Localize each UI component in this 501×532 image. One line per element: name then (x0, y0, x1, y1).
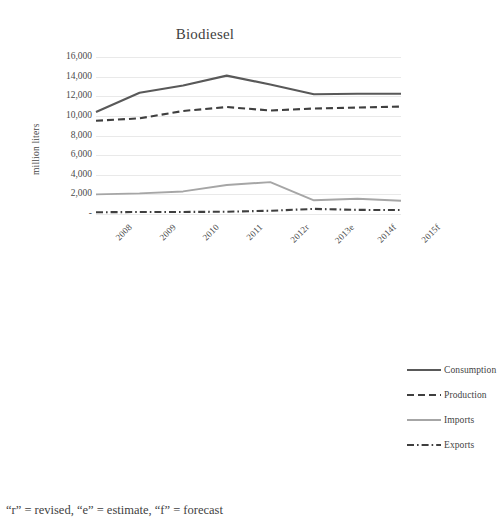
legend-item-production: Production (407, 382, 501, 407)
footnote-text: “r” = revised, “e” = estimate, “f” = for… (6, 503, 223, 518)
plot-area-biodiesel (96, 57, 401, 214)
x-tick-label: 2009 (157, 222, 177, 242)
y-tick-label: 2,000 (44, 190, 92, 200)
legend-label: Production (441, 390, 487, 400)
y-tick-label: 12,000 (44, 92, 92, 102)
legend-swatch-icon (407, 415, 441, 425)
x-tick-label: 2012r (289, 222, 312, 245)
chart-figure: Biodiesel million liters -2,0004,0006,00… (0, 0, 501, 532)
y-tick-label: 16,000 (44, 52, 92, 62)
series-layer (96, 57, 401, 214)
y-axis-ticks-biodiesel: -2,0004,0006,0008,00010,00012,00014,0001… (44, 57, 92, 214)
y-tick-label: 6,000 (44, 150, 92, 160)
x-axis-ticks-biodiesel: 20082009201020112012r2013e2014f2015f (96, 218, 401, 264)
y-axis-label-biodiesel: million liters (31, 123, 41, 175)
chart-title-biodiesel: Biodiesel (0, 26, 410, 43)
legend-label: Imports (441, 415, 474, 425)
series-line-production (96, 107, 401, 121)
legend-item-exports: Exports (407, 432, 501, 457)
legend-swatch-icon (407, 390, 441, 400)
legend-item-consumption: Consumption (407, 357, 501, 382)
series-line-consumption (96, 76, 401, 112)
gridline (96, 214, 401, 215)
chart-panel-biodiesel: Biodiesel million liters -2,0004,0006,00… (0, 0, 501, 268)
x-tick-label: 2014f (376, 222, 399, 245)
series-line-imports (96, 182, 401, 201)
x-tick-label: 2011 (244, 222, 264, 242)
legend-item-imports: Imports (407, 407, 501, 432)
legend-label: Consumption (441, 365, 496, 375)
y-tick-label: 8,000 (44, 131, 92, 141)
y-tick-label: 14,000 (44, 72, 92, 82)
y-tick-label: 10,000 (44, 111, 92, 121)
y-tick-label: 4,000 (44, 170, 92, 180)
legend-label: Exports (441, 440, 474, 450)
legend-swatch-icon (407, 440, 441, 450)
x-tick-label: 2010 (201, 222, 221, 242)
x-tick-label: 2008 (114, 222, 134, 242)
y-tick-label: - (44, 209, 92, 219)
x-tick-label: 2015f (419, 222, 442, 245)
series-line-exports (96, 209, 401, 212)
chart-legend: ConsumptionProductionImportsExports (407, 357, 501, 457)
x-tick-label: 2013e (333, 222, 356, 245)
legend-swatch-icon (407, 365, 441, 375)
